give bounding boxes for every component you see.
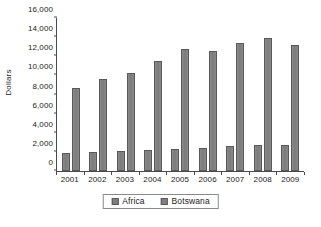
plot-area: 02,0004,0006,0008,00010,00012,00014,0001… bbox=[56, 18, 304, 172]
y-axis-title: Dollars bbox=[4, 53, 13, 113]
x-axis-tick-label: 2001 bbox=[56, 175, 84, 184]
bar-africa-2004 bbox=[144, 150, 152, 171]
legend-entry-botswana[interactable]: Botswana bbox=[161, 196, 210, 206]
bar-botswana-2003 bbox=[127, 73, 135, 171]
bar-botswana-2009 bbox=[291, 45, 299, 171]
bar-botswana-2007 bbox=[236, 43, 244, 171]
bar-africa-2007 bbox=[226, 146, 234, 171]
bar-group-2007 bbox=[222, 18, 249, 171]
bar-africa-2003 bbox=[117, 151, 125, 171]
legend-swatch-icon bbox=[111, 198, 118, 205]
bar-botswana-2005 bbox=[181, 49, 189, 171]
x-axis-tick-labels: 200120022003200420052006200720082009 bbox=[56, 175, 304, 184]
x-axis-tick-label: 2002 bbox=[84, 175, 112, 184]
bar-group-2006 bbox=[194, 18, 221, 171]
x-axis-tick-label: 2009 bbox=[277, 175, 305, 184]
bars-layer bbox=[57, 18, 304, 171]
bar-group-2008 bbox=[249, 18, 276, 171]
y-axis-tick-label: 0 bbox=[48, 158, 57, 167]
bar-group-2002 bbox=[84, 18, 111, 171]
y-axis-tick-label: 12,000 bbox=[28, 43, 57, 52]
chart-legend: AfricaBotswana bbox=[102, 194, 218, 209]
bar-africa-2005 bbox=[171, 149, 179, 171]
bar-botswana-2004 bbox=[154, 61, 162, 171]
bar-botswana-2002 bbox=[99, 79, 107, 171]
y-axis-tick-label: 16,000 bbox=[28, 5, 57, 14]
y-axis-tick-label: 10,000 bbox=[28, 62, 57, 71]
bar-group-2001 bbox=[57, 18, 84, 171]
x-axis-tick-label: 2006 bbox=[194, 175, 222, 184]
bar-africa-2009 bbox=[281, 145, 289, 171]
bar-group-2005 bbox=[167, 18, 194, 171]
y-axis-tick-label: 4,000 bbox=[32, 119, 57, 128]
bar-africa-2006 bbox=[199, 148, 207, 171]
x-axis-tick-label: 2008 bbox=[249, 175, 277, 184]
bar-botswana-2001 bbox=[72, 88, 80, 171]
y-axis-tick-label: 8,000 bbox=[32, 81, 57, 90]
legend-swatch-icon bbox=[161, 198, 168, 205]
legend-label: Africa bbox=[122, 196, 144, 206]
x-axis-tick-label: 2003 bbox=[111, 175, 139, 184]
bar-chart-figure: Dollars 02,0004,0006,0008,00010,00012,00… bbox=[0, 0, 321, 227]
y-axis-tick-label: 14,000 bbox=[28, 24, 57, 33]
x-axis-tick-label: 2005 bbox=[166, 175, 194, 184]
bar-botswana-2006 bbox=[209, 51, 217, 171]
y-axis-tick-label: 2,000 bbox=[32, 138, 57, 147]
y-axis-tick-label: 6,000 bbox=[32, 100, 57, 109]
legend-entry-africa[interactable]: Africa bbox=[111, 196, 144, 206]
bar-africa-2002 bbox=[89, 152, 97, 171]
bar-group-2004 bbox=[139, 18, 166, 171]
x-axis-tick-label: 2004 bbox=[139, 175, 167, 184]
bar-group-2003 bbox=[112, 18, 139, 171]
bar-africa-2008 bbox=[254, 145, 262, 171]
x-axis-tick-label: 2007 bbox=[221, 175, 249, 184]
x-axis-tick-mark bbox=[304, 172, 305, 175]
bar-africa-2001 bbox=[62, 153, 70, 171]
bar-group-2009 bbox=[277, 18, 304, 171]
bar-botswana-2008 bbox=[264, 38, 272, 171]
legend-label: Botswana bbox=[172, 196, 210, 206]
